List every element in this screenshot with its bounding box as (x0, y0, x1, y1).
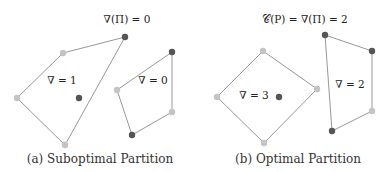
interior-point (276, 94, 282, 100)
panel-b-caption: (b) Optimal Partition (235, 152, 361, 166)
panel-a-title: ∇(Π) = 0 (104, 13, 151, 25)
light-vertex (314, 86, 320, 92)
panel-b-title: 𝒞(P) = ∇(Π) = 2 (262, 13, 348, 25)
light-vertex (14, 95, 20, 101)
light-vertex (261, 140, 267, 146)
panel-a-caption: (a) Suboptimal Partition (27, 152, 174, 166)
panel-b-poly2-label: ∇ = 2 (335, 78, 365, 90)
light-vertex (260, 48, 266, 54)
partition-polygon (117, 52, 172, 135)
light-vertex (214, 94, 220, 100)
light-vertex (369, 108, 375, 114)
panel-b-poly1-label: ∇ = 3 (239, 89, 269, 101)
light-vertex (114, 87, 120, 93)
dark-vertex (122, 34, 128, 40)
partition-figure: ∇(Π) = 0 ∇ = 1 ∇ = 0 (a) Suboptimal Part… (0, 0, 389, 172)
light-vertex (169, 109, 175, 115)
panel-a-poly2-label: ∇ = 0 (138, 74, 168, 86)
dark-vertex (369, 48, 375, 54)
dark-vertex (129, 132, 135, 138)
dark-vertex (322, 32, 328, 38)
dark-vertex (329, 128, 335, 134)
dark-vertex (169, 49, 175, 55)
panel-a-poly1-label: ∇ = 1 (47, 74, 77, 86)
light-vertex (62, 142, 68, 148)
interior-point (76, 95, 82, 101)
light-vertex (60, 50, 66, 56)
partition-polygon (17, 37, 125, 145)
